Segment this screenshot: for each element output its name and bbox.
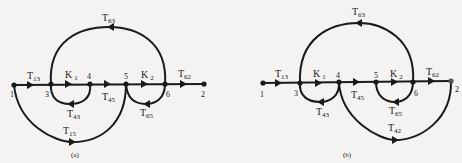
edge-label-b-t65: T65 [389, 105, 403, 118]
edge-a-t43 [51, 84, 90, 104]
node-b-3 [297, 80, 302, 85]
edge-label-a-t43: T43 [67, 108, 81, 121]
arrow-a-t45 [104, 80, 111, 88]
edge-b-t65 [376, 82, 413, 102]
edge-label-b-k1: K1 [313, 68, 326, 81]
edge-label-b-t42: T42 [388, 122, 402, 135]
caption-b: (b) [343, 151, 352, 159]
edge-label-a-k2: K2 [141, 69, 154, 82]
figure-b: 1 3 4 5 6 2 T13 K1 T45 K2 T62 T63 T43 T6… [260, 6, 459, 159]
signal-flow-diagrams: 1 3 4 5 6 2 T13 K1 T45 K2 T62 T63 T43 T6… [0, 0, 462, 163]
edge-label-a-k1: K1 [65, 69, 78, 82]
node-b-5 [373, 79, 378, 84]
node-b-2 [448, 78, 453, 83]
arrow-b-k1 [315, 79, 322, 87]
edge-label-a-t15: T15 [63, 125, 77, 138]
arrow-b-t63 [355, 19, 362, 27]
edge-label-a-t13: T13 [27, 70, 41, 83]
node-a-1 [11, 82, 16, 87]
node-a-2 [201, 81, 206, 86]
arrow-a-t15 [69, 138, 76, 146]
edge-label-a-t65: T65 [140, 107, 154, 120]
node-label-a-4: 4 [87, 72, 91, 81]
node-b-4 [336, 79, 341, 84]
node-a-5 [123, 81, 128, 86]
edge-a-t65 [126, 84, 165, 104]
arrow-a-t62 [180, 80, 187, 88]
node-a-3 [48, 81, 53, 86]
node-a-4 [87, 81, 92, 86]
arrow-b-t45 [353, 78, 360, 86]
edge-label-b-t45: T45 [351, 89, 365, 102]
node-label-b-2: 2 [455, 85, 459, 94]
edge-label-b-t63: T63 [352, 6, 366, 19]
arrow-a-t43 [67, 100, 74, 108]
arrow-a-k2 [141, 80, 148, 88]
edge-label-a-t63: T63 [102, 12, 116, 25]
node-label-a-5: 5 [124, 72, 128, 81]
node-b-6 [410, 79, 415, 84]
edge-label-a-t45: T45 [102, 91, 116, 104]
edge-label-b-t43: T43 [316, 106, 330, 119]
edge-label-b-t13: T13 [275, 68, 289, 81]
node-label-a-1: 1 [10, 90, 14, 99]
node-label-b-4: 4 [336, 71, 340, 80]
node-label-b-6: 6 [414, 89, 418, 98]
arrow-b-k2 [391, 78, 398, 86]
node-label-b-3: 3 [294, 89, 298, 98]
node-label-a-3: 3 [45, 90, 49, 99]
edge-label-a-t62: T62 [178, 68, 192, 81]
arrow-b-t42 [392, 136, 399, 144]
node-label-a-6: 6 [166, 90, 170, 99]
node-label-b-5: 5 [374, 71, 378, 80]
arrow-a-k1 [65, 80, 72, 88]
node-label-a-2: 2 [201, 90, 205, 99]
figure-a: 1 3 4 5 6 2 T13 K1 T45 K2 T62 T63 T43 T6… [10, 12, 207, 159]
node-a-6 [162, 81, 167, 86]
node-label-b-1: 1 [260, 90, 264, 99]
arrow-b-t43 [317, 98, 324, 106]
caption-a: (a) [71, 151, 79, 159]
node-b-1 [260, 80, 265, 85]
edge-b-t43 [300, 82, 339, 102]
